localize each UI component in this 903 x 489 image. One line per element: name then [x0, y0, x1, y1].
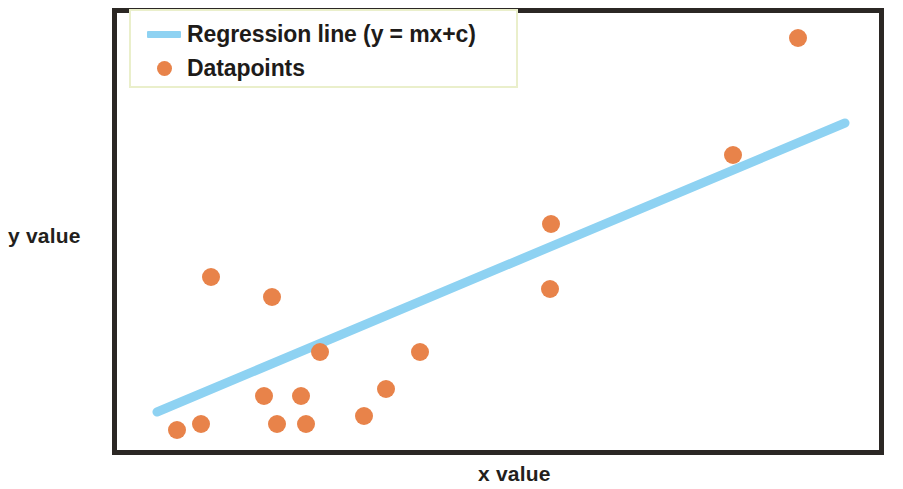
datapoint-marker [377, 380, 395, 398]
legend-dot-swatch-icon [141, 61, 187, 76]
datapoint-marker [724, 146, 742, 164]
datapoint-marker [268, 415, 286, 433]
datapoint-marker [297, 415, 315, 433]
datapoint-marker [168, 421, 186, 439]
datapoint-marker [263, 288, 281, 306]
y-axis-label: y value [8, 224, 81, 248]
regression-line-segment [157, 123, 845, 412]
legend-label-regression-line: Regression line (y = mx+c) [187, 21, 476, 48]
datapoint-marker [311, 343, 329, 361]
datapoint-marker [292, 387, 310, 405]
legend-item-regression-line: Regression line (y = mx+c) [141, 17, 506, 51]
datapoint-marker [255, 387, 273, 405]
datapoint-marker [192, 415, 210, 433]
datapoint-marker [789, 29, 807, 47]
legend-line-swatch-icon [141, 31, 187, 38]
datapoint-marker [411, 343, 429, 361]
legend: Regression line (y = mx+c) Datapoints [129, 9, 518, 88]
datapoint-marker [541, 280, 559, 298]
legend-label-datapoints: Datapoints [187, 55, 305, 82]
datapoints-group [168, 29, 807, 439]
x-axis-label: x value [478, 462, 551, 486]
datapoint-marker [542, 215, 560, 233]
regression-line [157, 123, 845, 412]
regression-scatter-figure: y value x value Regression line (y = mx+… [0, 0, 903, 489]
datapoint-marker [355, 407, 373, 425]
datapoint-marker [202, 268, 220, 286]
legend-item-datapoints: Datapoints [141, 51, 506, 85]
